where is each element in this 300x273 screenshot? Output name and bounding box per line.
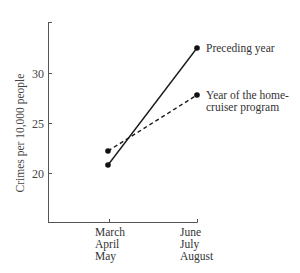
y-tick-label-20: 20 bbox=[32, 167, 44, 181]
legend-label-home-cruiser-line2: cruiser program bbox=[206, 101, 279, 114]
x-cat-label-august: August bbox=[180, 250, 214, 263]
line-chart: 30 25 20 Crimes per 10,000 people March … bbox=[0, 0, 300, 273]
x-category-spring: March April May bbox=[95, 226, 125, 263]
x-category-summer: June July August bbox=[180, 226, 214, 263]
x-cat-label-may: May bbox=[95, 250, 116, 263]
series-preceding-year bbox=[105, 45, 200, 168]
legend-label-preceding-year: Preceding year bbox=[206, 42, 275, 55]
data-point bbox=[194, 92, 200, 98]
series-home-cruiser-program bbox=[105, 92, 200, 154]
x-cat-label-june: June bbox=[180, 226, 201, 238]
y-axis-label: Crimes per 10,000 people bbox=[14, 74, 27, 193]
legend-label-home-cruiser-line1: Year of the home- bbox=[206, 89, 289, 101]
series-line-dashed bbox=[108, 95, 197, 151]
data-point bbox=[194, 45, 200, 51]
series-line-solid bbox=[108, 48, 197, 165]
y-tick-label-30: 30 bbox=[32, 67, 44, 81]
data-point bbox=[105, 162, 111, 168]
x-cat-label-march: March bbox=[95, 226, 125, 238]
y-tick-label-25: 25 bbox=[32, 117, 44, 131]
data-point bbox=[105, 148, 111, 154]
